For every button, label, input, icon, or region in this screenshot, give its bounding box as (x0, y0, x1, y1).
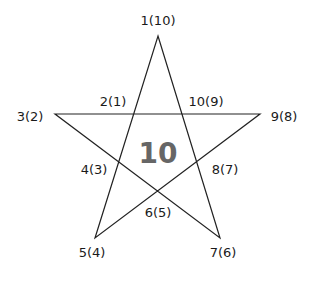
outer-point-label-bottom-left: 5(4) (79, 245, 106, 260)
outer-point-label-right: 9(8) (271, 109, 298, 124)
outer-point-label-left: 3(2) (17, 109, 44, 124)
inner-point-label-lower-right: 8(7) (212, 162, 239, 177)
outer-point-label-bottom-right: 7(6) (210, 245, 237, 260)
inner-point-label-bottom: 6(5) (145, 205, 172, 220)
center-value: 10 (139, 137, 178, 170)
inner-point-label-lower-left: 4(3) (81, 162, 108, 177)
inner-point-label-upper-left: 2(1) (100, 94, 127, 109)
inner-point-label-upper-right: 10(9) (189, 94, 224, 109)
outer-point-label-top: 1(10) (141, 13, 176, 28)
